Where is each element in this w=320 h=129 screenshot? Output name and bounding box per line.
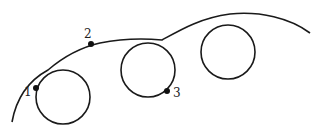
point-1-label: 1 (24, 85, 32, 99)
outer-curve (12, 13, 310, 122)
point-2-marker (88, 41, 94, 47)
point-2-label: 2 (84, 27, 92, 41)
point-3-label: 3 (173, 86, 181, 100)
loop-1 (36, 70, 90, 124)
loop-3 (201, 25, 255, 79)
trochoid-diagram: 1 2 3 (0, 0, 320, 129)
point-3-marker (164, 88, 170, 94)
point-1-marker (33, 85, 39, 91)
diagram-svg: 1 2 3 (0, 0, 320, 129)
